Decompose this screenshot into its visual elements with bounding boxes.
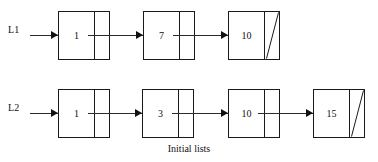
figure-caption: Initial lists bbox=[0, 143, 378, 155]
arrow-shaft bbox=[88, 113, 142, 114]
list-node: 15 bbox=[313, 89, 365, 138]
null-slash-icon bbox=[351, 90, 364, 137]
arrow-head bbox=[221, 31, 228, 39]
node-value: 15 bbox=[314, 90, 350, 137]
node-value: 10 bbox=[229, 12, 265, 59]
arrow-shaft bbox=[88, 35, 143, 36]
link-arrow bbox=[88, 109, 142, 118]
arrow-shaft bbox=[173, 35, 228, 36]
list-label-l2: L2 bbox=[8, 103, 30, 113]
arrow-head bbox=[51, 31, 58, 39]
link-arrow bbox=[172, 109, 228, 118]
arrow-head bbox=[51, 109, 58, 117]
arrow-head bbox=[306, 109, 313, 117]
head-arrow-l2 bbox=[30, 109, 58, 118]
null-slash-icon bbox=[266, 12, 279, 59]
link-arrow bbox=[88, 31, 143, 40]
arrow-shaft bbox=[172, 113, 228, 114]
null-pointer-cell bbox=[351, 90, 364, 137]
linked-list-row-l1: L1 1 7 10 bbox=[0, 11, 378, 61]
arrow-head bbox=[221, 109, 228, 117]
arrow-head bbox=[136, 31, 143, 39]
head-arrow-l1 bbox=[30, 31, 58, 40]
arrow-head bbox=[135, 109, 142, 117]
arrow-shaft bbox=[258, 113, 313, 114]
linked-list-diagram: L1 1 7 10 bbox=[0, 0, 378, 162]
list-label-l1: L1 bbox=[8, 25, 30, 35]
linked-list-row-l2: L2 1 3 10 bbox=[0, 89, 378, 139]
link-arrow bbox=[173, 31, 228, 40]
list-node: 10 bbox=[228, 11, 280, 60]
null-pointer-cell bbox=[266, 12, 279, 59]
link-arrow bbox=[258, 109, 313, 118]
